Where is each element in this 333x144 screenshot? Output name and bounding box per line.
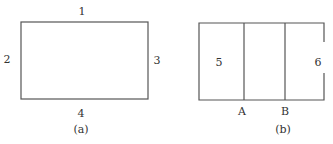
edge-label-left: 2 [4, 54, 11, 65]
rectangle-a [21, 22, 148, 99]
edge-label-right: 3 [154, 55, 161, 66]
region-label-left: 5 [216, 57, 223, 68]
edge-label-top: 1 [79, 6, 86, 17]
point-label-a: A [238, 106, 246, 117]
point-label-b: B [281, 106, 289, 117]
caption-a: (a) [73, 124, 88, 135]
caption-b: (b) [275, 124, 291, 135]
edge-label-bottom: 4 [78, 108, 85, 119]
region-label-right: 6 [315, 57, 322, 68]
